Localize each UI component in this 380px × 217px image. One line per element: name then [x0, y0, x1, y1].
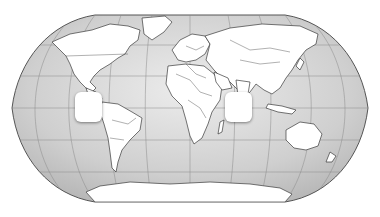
placeholder-box-americas: [75, 92, 102, 122]
world-map: [0, 0, 380, 217]
placeholder-box-indian-ocean: [225, 92, 252, 122]
world-map-svg: [0, 0, 380, 217]
